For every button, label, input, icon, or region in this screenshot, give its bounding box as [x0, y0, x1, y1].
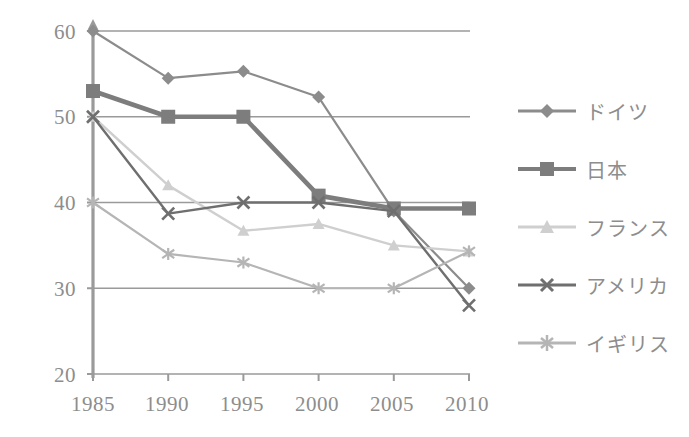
square-marker-icon [516, 158, 578, 180]
legend-item-uk[interactable]: イギリス [516, 314, 686, 372]
data-point-marker [387, 202, 401, 216]
legend-label-japan: 日本 [578, 155, 628, 184]
series-line [93, 203, 469, 289]
axes [87, 19, 469, 381]
legend-label-uk: イギリス [578, 329, 670, 358]
legend-label-germany: ドイツ [578, 97, 649, 126]
data-point-marker [237, 65, 250, 78]
legend-label-usa: アメリカ [578, 271, 669, 300]
series-日本 [86, 84, 476, 215]
series-ドイツ [87, 25, 476, 295]
data-point-marker [462, 202, 476, 216]
diamond-marker-icon [516, 100, 578, 122]
line-chart: 60 50 40 30 20 1985 1990 1995 2000 2005 … [0, 0, 689, 437]
series-lines [86, 25, 476, 312]
data-point-marker [236, 110, 250, 124]
data-point-marker [87, 25, 100, 38]
data-point-marker [161, 110, 175, 124]
legend-label-france: フランス [578, 213, 670, 242]
legend-item-usa[interactable]: アメリカ [516, 256, 686, 314]
data-point-marker [162, 72, 175, 85]
triangle-marker-icon [516, 216, 578, 238]
series-イギリス [87, 197, 475, 295]
series-アメリカ [87, 111, 475, 312]
data-point-marker [463, 299, 475, 311]
legend-item-germany[interactable]: ドイツ [516, 82, 686, 140]
asterisk-marker-icon [516, 332, 578, 354]
legend: ドイツ 日本 フランス [516, 82, 686, 372]
x-marker-icon [516, 274, 578, 296]
data-point-marker [86, 84, 100, 98]
data-point-marker [312, 189, 326, 203]
data-point-marker [312, 91, 325, 104]
series-line [93, 31, 469, 288]
legend-item-japan[interactable]: 日本 [516, 140, 686, 198]
series-line [93, 117, 469, 306]
legend-item-france[interactable]: フランス [516, 198, 686, 256]
